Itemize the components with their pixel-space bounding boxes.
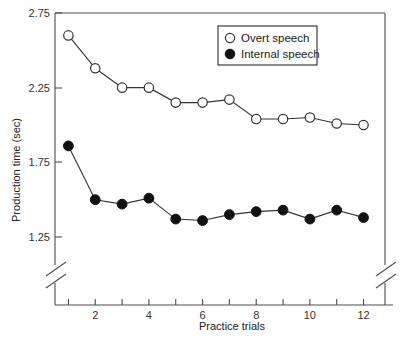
series-overt-speech <box>64 31 369 130</box>
data-point-filled-circle <box>171 214 181 224</box>
data-point-open-circle <box>198 98 207 107</box>
y-tick-label: 1.25 <box>29 231 50 243</box>
data-point-open-circle <box>171 98 180 107</box>
x-axis-title: Practice trials <box>199 320 266 332</box>
data-point-filled-circle <box>198 216 208 226</box>
data-point-filled-circle <box>117 199 127 209</box>
data-point-open-circle <box>91 64 100 73</box>
y-tick-labels: 2.75 2.25 1.75 1.25 <box>29 7 50 243</box>
figure-container: Production time (sec) 2.75 2.25 1.75 1.2… <box>0 0 419 346</box>
data-point-filled-circle <box>305 214 315 224</box>
legend-marker-open-circle-icon <box>225 33 234 42</box>
series-internal-speech <box>64 141 369 225</box>
data-point-filled-circle <box>332 205 342 215</box>
y-ticks <box>55 13 62 237</box>
x-tick-label: 2 <box>92 309 98 321</box>
x-tick-label: 12 <box>357 309 369 321</box>
data-point-filled-circle <box>224 210 234 220</box>
x-tick-label: 10 <box>304 309 316 321</box>
y-axis-title: Production time (sec) <box>10 118 22 222</box>
data-point-open-circle <box>305 113 314 122</box>
legend-label-internal: Internal speech <box>241 48 320 60</box>
data-point-open-circle <box>144 83 153 92</box>
data-point-open-circle <box>252 114 261 123</box>
x-tick-label: 4 <box>146 309 152 321</box>
data-point-filled-circle <box>144 193 154 203</box>
data-point-filled-circle <box>359 213 369 223</box>
data-point-open-circle <box>278 114 287 123</box>
legend-label-overt: Overt speech <box>241 32 309 44</box>
right-axis-break-icon <box>376 262 396 288</box>
data-point-filled-circle <box>251 207 261 217</box>
series-line <box>68 146 363 221</box>
y-tick-label: 1.75 <box>29 156 50 168</box>
data-point-filled-circle <box>278 205 288 215</box>
y-tick-label: 2.75 <box>29 7 50 19</box>
x-ticks <box>68 299 363 305</box>
data-point-open-circle <box>117 83 126 92</box>
line-chart: Production time (sec) 2.75 2.25 1.75 1.2… <box>0 0 419 346</box>
data-point-open-circle <box>332 119 341 128</box>
data-point-filled-circle <box>90 195 100 205</box>
y-axis-break-icon <box>46 262 66 288</box>
data-point-open-circle <box>359 120 368 129</box>
data-point-filled-circle <box>64 141 74 151</box>
data-point-open-circle <box>64 31 73 40</box>
y-tick-label: 2.25 <box>29 82 50 94</box>
legend-marker-filled-circle-icon <box>225 49 235 59</box>
legend: Overt speech Internal speech <box>218 26 320 65</box>
data-point-open-circle <box>225 95 234 104</box>
